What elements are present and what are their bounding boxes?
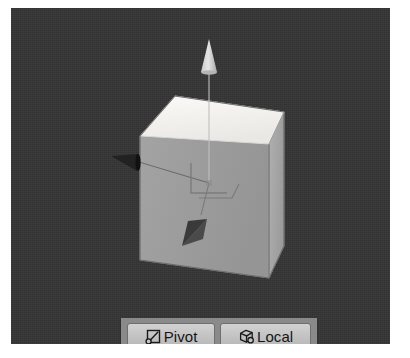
pivot-button-label: Pivot [164,328,198,344]
scene-viewport[interactable]: Pivot Local [11,8,390,344]
scene-view-toolbar: Pivot Local [121,318,317,344]
gizmo-center-handle[interactable] [206,180,212,186]
gizmo-x-axis-arrow[interactable] [111,154,139,171]
local-button-label: Local [257,328,293,344]
pivot-icon [145,328,162,344]
cube-mesh [140,96,284,278]
cube-front-face [140,136,269,278]
unity-scene-window: Pivot Local [0,0,410,358]
pivot-toggle-button[interactable]: Pivot [127,323,215,344]
gizmo-x-arrow-base [135,154,140,171]
gizmo-y-arrow-base [201,70,217,74]
local-toggle-button[interactable]: Local [220,323,311,344]
scene-render[interactable] [11,8,390,344]
local-icon [238,328,255,344]
cube-top-face [140,96,284,144]
gizmo-y-axis-arrow[interactable] [201,39,217,72]
